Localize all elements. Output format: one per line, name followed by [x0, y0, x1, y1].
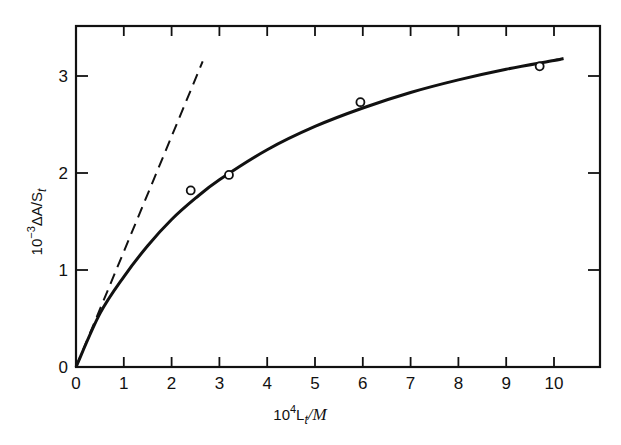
x-tick-label: 1 [119, 374, 128, 393]
series-layer [76, 59, 564, 367]
x-axis-label: 104Lt/M [273, 403, 327, 427]
fitted-curve [76, 59, 564, 367]
x-tick-label: 0 [71, 374, 80, 393]
y-tick-label: 2 [59, 164, 68, 183]
y-tick-label: 1 [59, 261, 68, 280]
x-tick-label: 4 [262, 374, 271, 393]
x-tick-label: 6 [358, 374, 367, 393]
y-tick-label: 3 [59, 67, 68, 86]
x-tick-label: 9 [501, 374, 510, 393]
x-tick-label: 10 [545, 374, 564, 393]
data-point [356, 98, 364, 106]
data-point [536, 62, 544, 70]
plot-border [76, 26, 600, 367]
data-point [225, 171, 233, 179]
x-tick-label: 2 [167, 374, 176, 393]
data-point [187, 186, 195, 194]
x-axis-ticks: 012345678910 [71, 26, 563, 393]
y-tick-label: 0 [59, 358, 68, 377]
x-tick-label: 3 [215, 374, 224, 393]
y-axis-label: 10−3ΔA/St [25, 188, 49, 255]
chart-canvas: 012345678910 0123 104Lt/M 10−3ΔA/St [0, 0, 621, 445]
x-tick-label: 5 [310, 374, 319, 393]
x-tick-label: 8 [454, 374, 463, 393]
plot-frame [76, 26, 600, 367]
y-axis-ticks: 0123 [59, 67, 600, 377]
x-tick-label: 7 [406, 374, 415, 393]
